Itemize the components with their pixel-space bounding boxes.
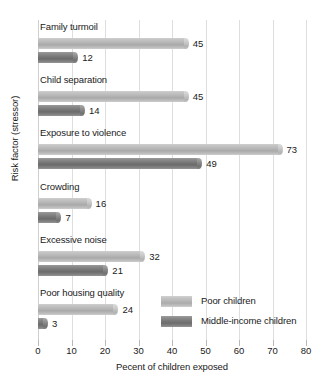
bar-value-label: 32 (149, 251, 160, 263)
category-label: Child separation (40, 73, 107, 86)
bar-end-cap (43, 318, 48, 329)
bar-group: Family turmoil4512 (38, 20, 306, 73)
bar (38, 251, 145, 262)
legend-label-poor-children: Poor children (201, 295, 256, 306)
bar-end-cap (184, 91, 189, 102)
y-axis-title: Risk factor (stressor) (9, 79, 20, 199)
bar-group: Crowding167 (38, 180, 306, 233)
bar-value-label: 73 (287, 144, 298, 156)
bar (38, 304, 118, 315)
legend-swatch-middle-income-children (161, 316, 192, 327)
bar-body (38, 91, 185, 102)
tick-label-20: 20 (90, 345, 120, 356)
bar (38, 198, 92, 209)
bar-end-cap (113, 304, 118, 315)
bar-body (38, 52, 74, 63)
bar (38, 105, 85, 116)
bar (38, 212, 61, 223)
tick-label-40: 40 (157, 345, 187, 356)
category-label: Exposure to violence (40, 126, 126, 139)
tick-label-30: 30 (124, 345, 154, 356)
bar-end-cap (56, 212, 61, 223)
bar-end-cap (197, 158, 202, 169)
bar-body (38, 144, 279, 155)
category-label: Excessive noise (40, 233, 107, 246)
bar-value-label: 49 (206, 158, 217, 170)
bar-end-cap (80, 105, 85, 116)
bar-value-label: 24 (122, 304, 133, 316)
bar-body (38, 38, 185, 49)
bar-end-cap (87, 198, 92, 209)
gridline-80 (306, 20, 307, 340)
bar-body (38, 212, 57, 223)
bar-group: Exposure to violence7349 (38, 126, 306, 179)
bar (38, 158, 202, 169)
bar-body (38, 304, 114, 315)
bar (38, 91, 189, 102)
bar-group: Child separation4514 (38, 73, 306, 126)
legend: Poor children Middle-income children (161, 294, 321, 334)
bar-body (38, 251, 141, 262)
bar (38, 318, 48, 329)
bar-end-cap (103, 265, 108, 276)
bar-end-cap (278, 144, 283, 155)
legend-item-poor-children: Poor children (161, 294, 321, 310)
tick-label-70: 70 (258, 345, 288, 356)
bar-value-label: 14 (89, 105, 100, 117)
tick-label-60: 60 (224, 345, 254, 356)
bar-body (38, 265, 104, 276)
x-axis-tick-labels: 01020304050607080 (0, 345, 326, 359)
plot-area: Family turmoil4512Child separation4514Ex… (38, 20, 306, 340)
legend-swatch-poor-children (161, 296, 192, 307)
bar-group: Excessive noise3221 (38, 233, 306, 286)
tick-label-0: 0 (23, 345, 53, 356)
bar-end-cap (140, 251, 145, 262)
bar (38, 265, 108, 276)
tick-label-80: 80 (291, 345, 321, 356)
bar-value-label: 12 (82, 52, 93, 64)
bar-value-label: 21 (112, 265, 123, 277)
legend-label-middle-income-children: Middle-income children (201, 315, 296, 326)
tick-label-10: 10 (57, 345, 87, 356)
category-label: Poor housing quality (40, 286, 124, 299)
bar-value-label: 3 (52, 318, 57, 330)
bar-value-label: 45 (193, 91, 204, 103)
bar (38, 38, 189, 49)
category-label: Family turmoil (40, 20, 98, 33)
bar-chart: Risk factor (stressor) Family turmoil451… (0, 0, 326, 387)
bar-value-label: 45 (193, 38, 204, 50)
bar (38, 144, 283, 155)
bar (38, 52, 78, 63)
bar-value-label: 16 (96, 198, 107, 210)
category-label: Crowding (40, 180, 79, 193)
bar-body (38, 158, 198, 169)
bar-end-cap (184, 38, 189, 49)
bar-body (38, 105, 81, 116)
legend-item-middle-income-children: Middle-income children (161, 314, 321, 330)
x-axis-title: Pecent of children exposed (38, 361, 306, 372)
tick-label-50: 50 (191, 345, 221, 356)
bar-end-cap (73, 52, 78, 63)
bar-body (38, 198, 88, 209)
bar-value-label: 7 (65, 212, 70, 224)
